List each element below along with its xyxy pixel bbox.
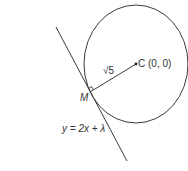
tangent-point-label: M <box>80 93 88 103</box>
radius-label: √5 <box>103 66 114 76</box>
diagram-graphic <box>0 0 188 171</box>
tangent-line-equation: y = 2x + λ <box>62 124 105 134</box>
center-label: C (0, 0) <box>138 59 171 69</box>
tangent-line <box>56 27 127 161</box>
center-point-dot <box>135 63 138 66</box>
diagram-canvas: C (0, 0) √5 M y = 2x + λ <box>0 0 188 171</box>
